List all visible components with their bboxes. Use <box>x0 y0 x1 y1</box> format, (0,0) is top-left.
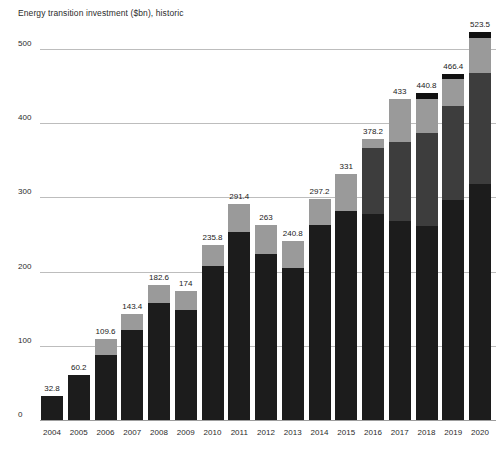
bar-2012 <box>255 225 277 420</box>
bar-2011 <box>228 204 250 420</box>
bar-2018 <box>416 93 438 420</box>
bar-value-label: 263 <box>238 213 294 222</box>
bar-segment-2 <box>416 99 438 133</box>
chart-title: Energy transition investment ($bn), hist… <box>18 8 184 18</box>
bar-segment-2 <box>469 38 491 74</box>
bar-segment-0 <box>362 214 384 420</box>
bar-2013 <box>282 241 304 420</box>
bar-segment-0 <box>469 184 491 420</box>
gridline-0 <box>40 420 496 421</box>
bar-segment-1 <box>389 142 411 221</box>
bar-2010 <box>202 245 224 420</box>
bar-segment-1 <box>469 73 491 184</box>
bar-segment-2 <box>202 245 224 266</box>
bar-2015 <box>335 174 357 420</box>
bar-segment-0 <box>335 211 357 420</box>
bar-segment-0 <box>228 232 250 420</box>
bar-value-label: 523.5 <box>452 20 504 29</box>
bar-segment-2 <box>389 99 411 142</box>
bar-2019 <box>442 74 464 420</box>
bar-segment-2 <box>442 79 464 106</box>
bar-segment-2 <box>362 139 384 147</box>
x-axis-tick-label: 2020 <box>460 428 500 437</box>
bar-segment-0 <box>121 330 143 420</box>
bar-segment-2 <box>175 291 197 310</box>
bar-value-label: 291.4 <box>211 192 267 201</box>
bar-2004 <box>41 396 63 420</box>
y-axis-tick-label: 0 <box>18 410 22 419</box>
gridline-500 <box>40 49 496 50</box>
bar-segment-0 <box>309 225 331 420</box>
y-axis-tick-label: 100 <box>18 336 31 345</box>
y-axis-tick-label: 400 <box>18 113 31 122</box>
bar-2007 <box>121 314 143 420</box>
y-axis-tick-label: 200 <box>18 262 31 271</box>
bar-segment-0 <box>282 268 304 420</box>
bar-2017 <box>389 99 411 420</box>
plot-area: 010020030040050032.8200460.22005109.6200… <box>40 30 496 430</box>
bar-segment-2 <box>95 339 117 356</box>
y-axis-tick-label: 300 <box>18 187 31 196</box>
bar-2008 <box>148 285 170 420</box>
bar-segment-0 <box>202 266 224 420</box>
bar-2014 <box>309 199 331 420</box>
bar-2005 <box>68 375 90 420</box>
bar-segment-0 <box>41 396 63 420</box>
bar-segment-1 <box>442 106 464 199</box>
chart-container: Energy transition investment ($bn), hist… <box>0 0 504 449</box>
bar-segment-0 <box>442 200 464 420</box>
bar-segment-0 <box>148 303 170 420</box>
bar-segment-1 <box>416 133 438 226</box>
bar-2016 <box>362 139 384 420</box>
bar-segment-1 <box>362 148 384 215</box>
bar-segment-2 <box>121 314 143 331</box>
bar-2009 <box>175 291 197 420</box>
bar-segment-0 <box>95 355 117 420</box>
bar-segment-0 <box>389 221 411 420</box>
bar-segment-0 <box>255 254 277 420</box>
bar-2020 <box>469 32 491 420</box>
bar-segment-2 <box>282 241 304 268</box>
bar-segment-2 <box>335 174 357 210</box>
bar-2006 <box>95 339 117 420</box>
bar-segment-2 <box>309 199 331 224</box>
bar-segment-0 <box>68 375 90 420</box>
bar-segment-0 <box>175 310 197 420</box>
bar-segment-0 <box>416 226 438 420</box>
y-axis-tick-label: 500 <box>18 39 31 48</box>
